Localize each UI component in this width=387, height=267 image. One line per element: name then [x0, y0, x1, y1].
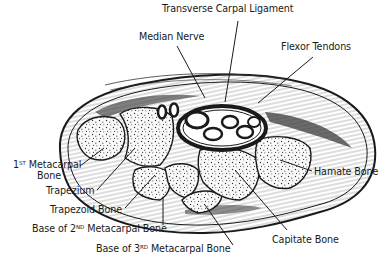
label-base-3rd-metacarpal-bone: Base of 3RD Metacarpal Bone: [96, 244, 230, 255]
label-median-nerve: Median Nerve: [139, 32, 204, 43]
label-base-2nd-metacarpal-bone: Base of 2ND Metacarpal Bone: [32, 224, 167, 235]
label-transverse-carpal-ligament: Transverse Carpal Ligament: [162, 4, 294, 15]
label-trapezoid-bone: Trapezoid Bone: [50, 205, 122, 216]
label-first-metacarpal-bone: 1ST Metacarpal Bone: [13, 160, 81, 181]
median-nerve-shape: [186, 112, 208, 128]
label-flexor-tendons: Flexor Tendons: [281, 42, 351, 53]
first-metacarpal-shape: [77, 117, 125, 161]
label-trapezium: Trapezium: [46, 186, 95, 197]
label-hamate-bone: Hamate Bone: [314, 167, 378, 178]
wrist-cross-section-diagram: Transverse Carpal Ligament Median Nerve …: [0, 0, 387, 267]
label-capitate-bone: Capitate Bone: [272, 235, 339, 246]
